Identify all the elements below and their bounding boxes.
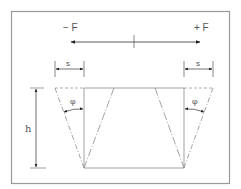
- angle-left-indicator: [64, 109, 83, 112]
- shear-deformation-diagram: − F + F s s φ φ h: [0, 0, 241, 189]
- force-negative-label: − F: [63, 22, 78, 33]
- height-dimension: [30, 88, 46, 168]
- force-positive-label: + F: [194, 22, 209, 33]
- right-deformed-edge: [184, 88, 213, 168]
- angle-right-label: φ: [192, 97, 198, 106]
- force-arrow: [71, 35, 200, 48]
- left-inner-slant: [84, 88, 114, 168]
- angle-right-indicator: [185, 109, 204, 112]
- height-label: h: [25, 123, 32, 134]
- angle-left-label: φ: [70, 97, 76, 106]
- displacement-left-label: s: [66, 59, 70, 68]
- displacement-right-label: s: [196, 59, 200, 68]
- right-inner-slant: [155, 88, 184, 168]
